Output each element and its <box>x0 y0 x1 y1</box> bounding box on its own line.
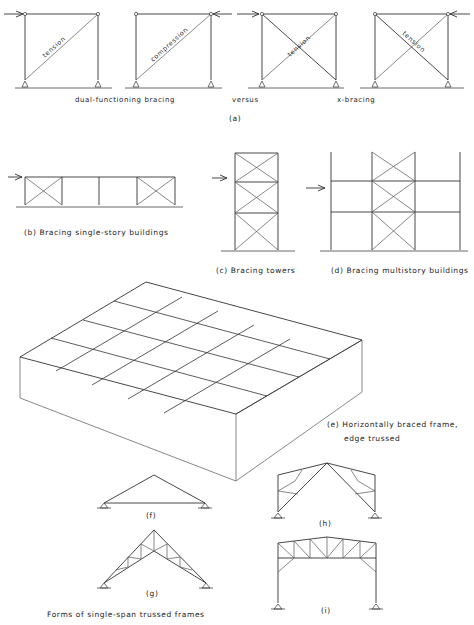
bracing-diagram: tension compression tension <box>0 0 474 625</box>
label-f: (f) <box>146 511 156 520</box>
label-g: (g) <box>146 589 158 598</box>
caption-x-bracing: x-bracing <box>337 96 375 104</box>
label-c: (c) Bracing towers <box>216 266 295 275</box>
caption-trussed-frames: Forms of single-span trussed frames <box>47 610 205 619</box>
caption-dual-functioning: dual-functioning bracing <box>75 96 175 104</box>
panel-a4-x-bracing: tension <box>360 12 470 88</box>
figure-b-single-story <box>8 177 183 207</box>
figure-f-simple-truss <box>97 475 212 508</box>
caption-versus: versus <box>232 96 259 104</box>
figure-g-scissor-truss <box>97 530 213 588</box>
label-i: (i) <box>321 606 331 615</box>
tension-label: tension <box>41 35 67 60</box>
label-h: (h) <box>319 519 331 528</box>
tension-label: tension <box>401 30 427 55</box>
panel-a3-x-bracing: tension <box>237 12 344 88</box>
panel-a1-tension: tension <box>4 12 112 88</box>
figure-e-horizontally-braced-frame <box>20 282 362 481</box>
label-a: (a) <box>229 114 241 123</box>
label-d: (d) Bracing multistory buildings <box>331 266 469 275</box>
panel-a2-compression: compression <box>125 12 232 88</box>
figure-d-multistory <box>306 152 468 251</box>
label-b: (b) Bracing single-story buildings <box>24 228 169 237</box>
label-e-line2: edge trussed <box>344 434 400 443</box>
label-e-line1: (e) Horizontally braced frame, <box>327 420 458 429</box>
compression-label: compression <box>149 26 190 64</box>
figure-c-tower <box>212 153 295 251</box>
figure-h-trussed-arch-frame <box>271 463 382 518</box>
figure-i-trussed-portal-frame <box>271 537 383 609</box>
